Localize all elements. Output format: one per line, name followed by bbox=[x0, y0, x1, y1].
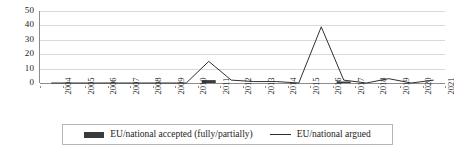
chart-container: 01020304050 2004200520062007200820092010… bbox=[0, 0, 454, 152]
x-tickmark-2005 bbox=[63, 86, 64, 88]
x-tick-label-2020: 2020 bbox=[411, 70, 420, 102]
x-tick-label-2019: 2019 bbox=[389, 70, 398, 102]
x-tickmark-2009 bbox=[153, 86, 154, 88]
y-tick-label-50: 50 bbox=[8, 6, 34, 15]
x-tick-label-2009: 2009 bbox=[164, 70, 173, 102]
legend-item-eu-national-argued[interactable]: EU/national argued bbox=[270, 129, 371, 140]
x-tickmark-2020 bbox=[400, 86, 401, 88]
x-tickmark-2018 bbox=[355, 86, 356, 88]
x-tickmark-2017 bbox=[333, 86, 334, 88]
line-swatch-icon bbox=[270, 134, 291, 135]
x-tick-label-2008: 2008 bbox=[141, 70, 150, 102]
x-tickmark-2013 bbox=[243, 86, 244, 88]
x-tickmark-2021 bbox=[423, 86, 424, 88]
x-tick-label-2018: 2018 bbox=[366, 70, 375, 102]
x-tick-label-2006: 2006 bbox=[96, 70, 105, 102]
x-tickmark-2012 bbox=[220, 86, 221, 88]
x-tick-label-2013: 2013 bbox=[254, 70, 263, 102]
x-tickmark-2014 bbox=[265, 86, 266, 88]
x-tickmark-end bbox=[445, 86, 446, 88]
x-tick-label-2005: 2005 bbox=[74, 70, 83, 102]
x-tick-label-2012: 2012 bbox=[231, 70, 240, 102]
x-tick-label-2011: 2011 bbox=[209, 70, 218, 102]
x-tickmark-2008 bbox=[130, 86, 131, 88]
y-tick-label-40: 40 bbox=[8, 20, 34, 29]
legend-label: EU/national argued bbox=[297, 129, 371, 140]
x-tick-label-2015: 2015 bbox=[299, 70, 308, 102]
x-tick-label-2016: 2016 bbox=[321, 70, 330, 102]
x-tickmark-2006 bbox=[85, 86, 86, 88]
x-tick-label-2010: 2010 bbox=[186, 70, 195, 102]
x-tick-label-2017: 2017 bbox=[344, 70, 353, 102]
x-tickmark-2019 bbox=[378, 86, 379, 88]
x-tickmark-2016 bbox=[310, 86, 311, 88]
x-tick-label-2004: 2004 bbox=[51, 70, 60, 102]
legend-label: EU/national accepted (fully/partially) bbox=[110, 129, 252, 140]
x-tickmark-2004 bbox=[40, 86, 41, 88]
x-tickmark-2015 bbox=[288, 86, 289, 88]
legend-item-eu-national-accepted[interactable]: EU/national accepted (fully/partially) bbox=[84, 129, 252, 140]
x-tickmark-2011 bbox=[198, 86, 199, 88]
x-tickmark-2007 bbox=[108, 86, 109, 88]
x-tick-label-2014: 2014 bbox=[276, 70, 285, 102]
y-tick-label-0: 0 bbox=[8, 78, 34, 87]
x-axis-tick-labels: 2004200520062007200820092010201120122013… bbox=[40, 86, 445, 118]
y-tick-label-10: 10 bbox=[8, 64, 34, 73]
x-tick-label-2021: 2021 bbox=[434, 70, 443, 102]
bar-swatch-icon bbox=[84, 132, 104, 138]
x-tick-label-2007: 2007 bbox=[119, 70, 128, 102]
y-tick-label-20: 20 bbox=[8, 49, 34, 58]
x-tickmark-2010 bbox=[175, 86, 176, 88]
chart-legend: EU/national accepted (fully/partially) E… bbox=[62, 124, 393, 145]
line-series-eu-national-argued bbox=[51, 27, 434, 83]
y-tick-label-30: 30 bbox=[8, 35, 34, 44]
